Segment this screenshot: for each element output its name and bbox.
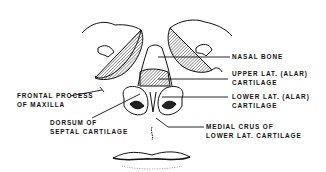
right-orbit [168, 20, 232, 72]
label-nasal-bone: NASAL BONE [232, 53, 283, 62]
label-dorsum-septal: DORSUM OF SEPTAL CARTILAGE [50, 119, 128, 136]
nose-anatomy-diagram: NASAL BONE UPPER LAT. (ALAR) CARTILAGE L… [0, 0, 326, 172]
left-orbit [82, 22, 143, 79]
label-frontal-process: FRONTAL PROCESS OF MAXILLA [17, 92, 93, 109]
label-lower-lat-cartilage: LOWER LAT. (ALAR) CARTILAGE [232, 93, 310, 110]
label-medial-crus: MEDIAL CRUS OF LOWER LAT. CARTILAGE [206, 123, 302, 140]
label-upper-lat-cartilage: UPPER LAT. (ALAR) CARTILAGE [232, 70, 308, 87]
